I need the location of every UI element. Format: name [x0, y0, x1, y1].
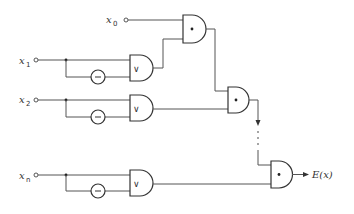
arrow-down-icon — [256, 120, 261, 126]
input-subscript-x2: 2 — [26, 100, 30, 108]
input-subscript-xn: n — [26, 176, 30, 184]
or-gate-n: ∨ — [130, 170, 153, 196]
input-x0: x 0 — [106, 14, 183, 28]
and-symbol-dot — [278, 173, 281, 176]
output-label: E(x) — [311, 169, 333, 180]
input-x2: x 2 ∨ — [19, 94, 228, 124]
not-gate-2 — [91, 110, 105, 124]
and-gate-1 — [183, 15, 206, 43]
or-symbol: ∨ — [133, 64, 140, 74]
input-xn: x n ∨ — [19, 170, 271, 198]
and-symbol-dot — [191, 28, 194, 31]
and-symbol-dot — [235, 99, 238, 102]
not-gate-n — [91, 184, 105, 198]
not-gate-1 — [91, 70, 105, 84]
or-symbol: ∨ — [133, 179, 140, 189]
or-symbol: ∨ — [133, 104, 140, 114]
terminal-icon — [34, 58, 38, 62]
input-subscript-x1: 1 — [26, 61, 30, 69]
logic-circuit-diagram: x 0 x 1 ∨ x 2 — [0, 0, 354, 214]
terminal-icon — [34, 98, 38, 102]
and-gate-final — [271, 161, 293, 188]
or-gate-1: ∨ — [130, 55, 153, 81]
terminal-icon — [34, 173, 38, 177]
input-label-xn: x — [19, 170, 25, 181]
arrow-right-icon — [303, 172, 309, 177]
or-gate-2: ∨ — [130, 95, 153, 121]
input-label-x1: x — [19, 55, 25, 66]
input-subscript-x0: 0 — [113, 20, 117, 28]
and-gate-2 — [228, 87, 249, 113]
input-label-x2: x — [19, 94, 25, 105]
continuation-dots — [257, 131, 259, 145]
circuit-svg: x 0 x 1 ∨ x 2 — [0, 0, 354, 214]
terminal-icon — [124, 18, 128, 22]
input-label-x0: x — [106, 14, 112, 25]
input-x1: x 1 ∨ — [19, 39, 183, 84]
